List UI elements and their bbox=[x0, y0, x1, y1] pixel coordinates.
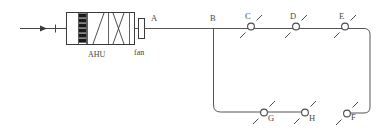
hvac-schematic-diagram: A B C D E F G H AHU fan bbox=[0, 0, 392, 135]
node-label-G: G bbox=[268, 113, 274, 123]
ahu-label: AHU bbox=[88, 50, 106, 59]
node-label-H: H bbox=[309, 113, 315, 123]
port-label-A: A bbox=[151, 13, 158, 23]
node-label-E: E bbox=[339, 11, 344, 21]
lower-branch-duct bbox=[214, 29, 265, 113]
port-label-B: B bbox=[210, 13, 216, 23]
node-E[interactable] bbox=[334, 15, 356, 38]
ahu-unit bbox=[67, 13, 135, 45]
node-C[interactable] bbox=[240, 15, 262, 38]
schematic-canvas: A B C D E F G H AHU fan bbox=[0, 0, 392, 135]
inlet-air-arrow bbox=[20, 25, 66, 33]
right-riser-duct bbox=[345, 29, 370, 114]
node-label-F: F bbox=[351, 112, 356, 122]
node-label-C: C bbox=[245, 11, 251, 21]
fan-label: fan bbox=[134, 48, 144, 57]
node-label-D: D bbox=[290, 11, 296, 21]
supply-fan bbox=[135, 19, 150, 39]
